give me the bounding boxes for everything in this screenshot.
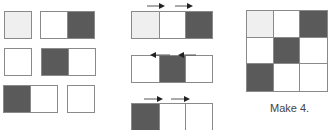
cell-white xyxy=(185,56,212,82)
cell-dark xyxy=(42,49,68,75)
grid-cell-dark xyxy=(247,64,274,91)
cell-white xyxy=(5,49,31,75)
grid-cell-white xyxy=(247,38,274,65)
cell-dark xyxy=(67,12,94,38)
cell-dark xyxy=(159,56,186,82)
piece-p3 xyxy=(4,48,32,76)
cell-dark xyxy=(132,104,159,130)
cell-white xyxy=(68,86,94,112)
cell-white xyxy=(30,86,57,112)
grid-cell-dark xyxy=(274,38,301,65)
cell-white xyxy=(159,12,186,38)
piece-p5 xyxy=(3,85,58,113)
grid-cell-dark xyxy=(300,11,327,38)
cell-white xyxy=(41,12,67,38)
arrow-right-icon xyxy=(175,0,193,4)
row-r2 xyxy=(131,55,213,83)
piece-p2 xyxy=(40,11,95,39)
cell-dark xyxy=(185,12,212,38)
arrow-left-icon xyxy=(150,45,170,53)
piece-p4 xyxy=(41,48,96,76)
cell-light xyxy=(5,12,31,38)
cell-white xyxy=(132,56,159,82)
cell-white xyxy=(159,104,186,130)
caption: Make 4. xyxy=(270,102,309,114)
cell-white xyxy=(68,49,95,75)
row-r1 xyxy=(131,11,213,39)
grid-cell-light xyxy=(247,11,274,38)
arrow-right-icon xyxy=(171,89,190,97)
arrow-right-icon xyxy=(144,89,163,97)
cell-dark xyxy=(4,86,30,112)
grid-cell-white xyxy=(274,11,301,38)
cell-light xyxy=(132,12,159,38)
cell-white xyxy=(185,104,212,130)
grid-cell-white xyxy=(274,64,301,91)
piece-p6 xyxy=(67,85,95,113)
target-grid xyxy=(246,10,328,92)
arrow-right-icon xyxy=(147,0,165,4)
piece-p1 xyxy=(4,11,32,39)
arrow-left-icon xyxy=(178,45,196,53)
grid-cell-white xyxy=(300,38,327,65)
row-r3 xyxy=(131,103,213,130)
grid-cell-white xyxy=(300,64,327,91)
